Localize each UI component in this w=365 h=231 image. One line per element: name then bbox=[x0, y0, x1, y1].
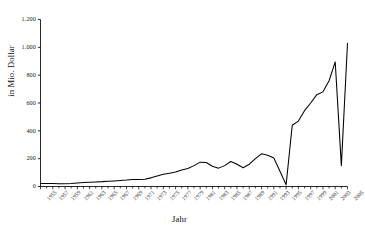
x-axis-title: Jahr bbox=[0, 214, 359, 224]
y-axis-title: in Mio. Dollar bbox=[6, 29, 16, 113]
data-series-line bbox=[41, 43, 348, 185]
y-axis-tick-label: 200 bbox=[0, 155, 36, 161]
y-axis-tick-label: 0 bbox=[0, 183, 36, 189]
y-axis-tick-label: 400 bbox=[0, 128, 36, 134]
chart-axes bbox=[41, 20, 348, 187]
y-axis-tick-label: 1.200 bbox=[0, 16, 36, 22]
